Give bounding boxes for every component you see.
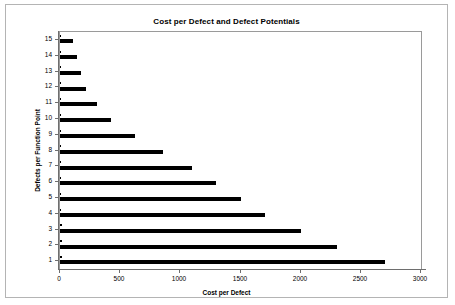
y-axis-tick <box>55 118 59 119</box>
y-axis-tick <box>55 86 59 87</box>
bar-secondary <box>60 35 61 37</box>
chart-frame: Cost per Defect and Defect Potentials 15… <box>5 4 448 298</box>
bar-main <box>60 166 192 170</box>
bar-secondary <box>60 66 61 68</box>
x-axis-line <box>58 269 426 270</box>
bar-secondary <box>60 114 61 116</box>
bar-main <box>60 39 73 43</box>
bar-secondary <box>60 177 61 179</box>
y-axis-tick-label: 1 <box>32 257 52 264</box>
bar-secondary <box>60 193 61 195</box>
bar-main <box>60 134 135 138</box>
bar-main <box>60 102 97 106</box>
x-axis-tick <box>300 269 301 273</box>
bar-main <box>60 229 301 233</box>
bar-main <box>60 197 241 201</box>
x-axis-tick-label: 2500 <box>340 275 380 282</box>
y-axis-tick <box>55 71 59 72</box>
x-axis-tick-label: 1500 <box>220 275 260 282</box>
x-axis-tick-label: 500 <box>99 275 139 282</box>
bar-secondary <box>60 224 62 226</box>
y-axis-tick <box>55 165 59 166</box>
x-axis-tick-label: 3000 <box>400 275 440 282</box>
y-axis-tick <box>55 55 59 56</box>
y-axis-title: Defects per Function Point <box>34 91 41 211</box>
x-axis-title: Cost per Defect <box>6 289 447 296</box>
bar-secondary <box>60 145 61 147</box>
y-axis-tick <box>55 102 59 103</box>
bar-secondary <box>60 209 61 211</box>
x-axis-tick <box>119 269 120 273</box>
x-axis-tick <box>360 269 361 273</box>
y-axis-tick <box>55 197 59 198</box>
bar-main <box>60 181 216 185</box>
bar-main <box>60 213 265 217</box>
y-axis-tick-label: 2 <box>32 241 52 248</box>
y-axis-title-wrapper: Defects per Function Point <box>24 35 38 235</box>
bar-main <box>60 150 163 154</box>
x-axis-tick <box>240 269 241 273</box>
y-axis-tick <box>55 150 59 151</box>
bar-secondary <box>60 51 61 53</box>
y-axis-tick <box>55 229 59 230</box>
bar-main <box>60 55 77 59</box>
plot-area <box>59 31 422 270</box>
x-axis-tick-label: 2000 <box>280 275 320 282</box>
x-axis-tick <box>420 269 421 273</box>
chart-title: Cost per Defect and Defect Potentials <box>6 17 447 26</box>
y-axis-tick <box>55 181 59 182</box>
bar-main <box>60 71 81 75</box>
y-axis-tick <box>55 39 59 40</box>
bar-main <box>60 260 385 264</box>
bar-secondary <box>60 82 61 84</box>
bar-main <box>60 87 86 91</box>
y-axis-tick <box>55 213 59 214</box>
y-axis-tick <box>55 244 59 245</box>
y-axis-tick <box>55 260 59 261</box>
bar-secondary <box>60 161 61 163</box>
bars-container <box>60 32 421 269</box>
x-axis-tick-label: 1000 <box>159 275 199 282</box>
bar-secondary <box>60 256 62 258</box>
x-axis-tick <box>59 269 60 273</box>
bar-main <box>60 118 111 122</box>
bar-secondary <box>60 98 61 100</box>
bar-secondary <box>60 130 61 132</box>
bar-secondary <box>60 240 62 242</box>
y-axis-tick <box>55 134 59 135</box>
bar-main <box>60 245 337 249</box>
x-axis-tick-label: 0 <box>39 275 79 282</box>
x-axis-tick <box>179 269 180 273</box>
